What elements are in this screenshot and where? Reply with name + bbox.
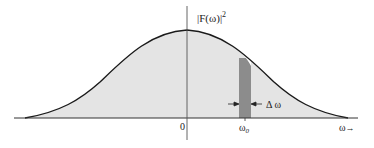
spectrum-fill: [25, 30, 348, 118]
power-spectrum-diagram: |F(ω)|2 0 ω0 Δ ω ω→: [0, 0, 374, 148]
bandwidth-label: Δ ω: [266, 99, 281, 110]
omega0-label: ω0: [239, 122, 250, 135]
origin-label: 0: [180, 121, 185, 132]
x-axis-label: ω→: [339, 122, 355, 133]
y-axis-label: |F(ω)|2: [197, 10, 226, 25]
bandwidth-band: [239, 58, 251, 118]
